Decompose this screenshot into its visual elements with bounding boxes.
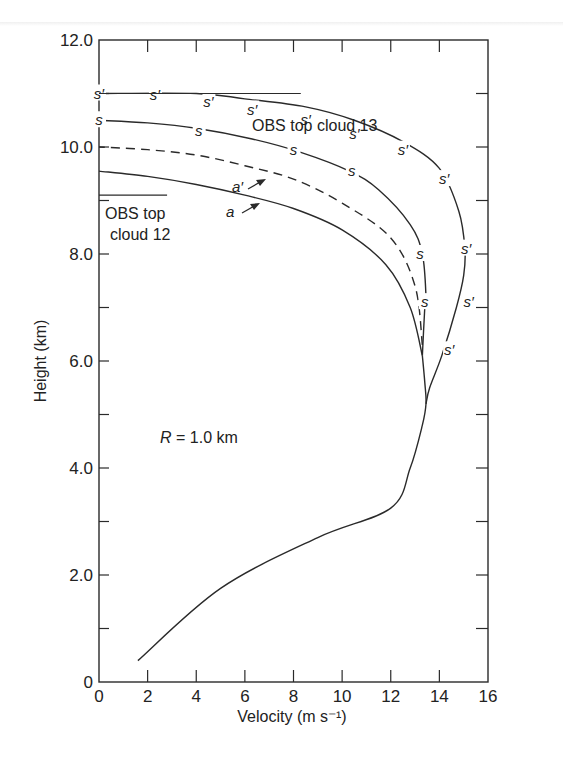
curve-marker-label: s xyxy=(421,293,429,310)
x-tick-label: 12 xyxy=(381,687,400,706)
curve-marker-label: s′ xyxy=(461,240,473,257)
x-tick-label: 0 xyxy=(94,687,103,706)
curve-marker-label: s xyxy=(95,111,103,128)
y-tick-label: 10.0 xyxy=(60,138,93,157)
curve-marker-label: s′ xyxy=(463,293,475,310)
curve-marker-label: s xyxy=(348,162,356,179)
curve-marker-label: s′ xyxy=(444,341,456,358)
curve-marker-label: s′ xyxy=(247,101,259,118)
plot-frame xyxy=(99,40,488,682)
curve-marker-label: s xyxy=(290,141,298,158)
x-tick-label: 6 xyxy=(240,687,249,706)
y-tick-label: 2.0 xyxy=(69,566,93,585)
y-tick-label: 4.0 xyxy=(69,459,93,478)
label-a-prime: a′ xyxy=(232,178,244,195)
arrowhead-a-prime xyxy=(256,179,266,186)
obs-top-cloud-12-label-2: cloud 12 xyxy=(110,226,171,243)
curve-marker-label: s xyxy=(416,245,424,262)
data-curves xyxy=(99,93,465,660)
axis-ticks xyxy=(99,40,488,682)
x-tick-label: 14 xyxy=(430,687,449,706)
curve-s- xyxy=(99,93,465,404)
annotations: OBS top cloud 13OBS topcloud 12R = 1.0 k… xyxy=(99,94,378,447)
obs-top-cloud-13-label: OBS top cloud 13 xyxy=(252,117,378,134)
y-axis-title: Height (km) xyxy=(32,320,49,403)
x-tick-label: 8 xyxy=(289,687,298,706)
plot-border xyxy=(99,40,488,682)
curve-a xyxy=(99,171,422,356)
y-tick-label: 12.0 xyxy=(60,31,93,50)
r-parameter-label: R = 1.0 km xyxy=(160,429,238,446)
x-axis-title: Velocity (m s⁻¹) xyxy=(237,708,346,725)
curve-marker-label: s′ xyxy=(398,141,410,158)
obs-top-cloud-12-label: OBS top xyxy=(105,205,166,222)
y-tick-label: 6.0 xyxy=(69,352,93,371)
y-tick-label: 8.0 xyxy=(69,245,93,264)
curve-a-common-lower- xyxy=(138,356,426,661)
curve-marker-label: s′ xyxy=(439,170,451,187)
chart-canvas: 024681012141602.04.06.08.010.012.0 sssss… xyxy=(0,0,563,762)
x-tick-label: 4 xyxy=(192,687,201,706)
x-tick-label: 10 xyxy=(333,687,352,706)
label-a: a xyxy=(226,203,234,220)
x-tick-label: 2 xyxy=(143,687,152,706)
curve-marker-label: s xyxy=(195,122,203,139)
curve-marker-label: s′ xyxy=(203,93,215,110)
arrowhead-a xyxy=(250,203,260,210)
x-tick-label: 16 xyxy=(479,687,498,706)
y-tick-label: 0 xyxy=(84,673,93,692)
